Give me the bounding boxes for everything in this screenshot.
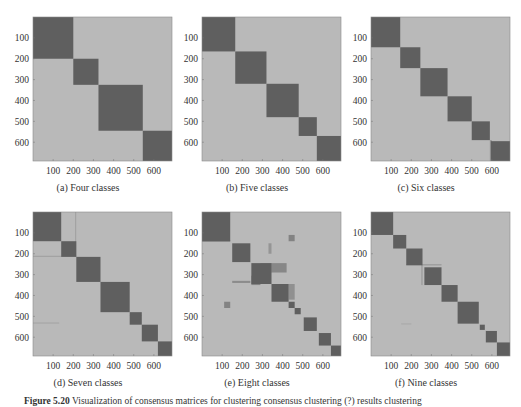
- cluster-block: [202, 17, 235, 51]
- x-tick-label: 300: [424, 166, 439, 176]
- panel-d: 100200300400500600100200300400500600 (d)…: [3, 201, 173, 391]
- x-tick-label: 200: [235, 166, 250, 176]
- off-diagonal-patch: [33, 323, 59, 324]
- x-tick-label: 600: [316, 361, 331, 371]
- x-tick-label: 400: [444, 166, 459, 176]
- y-tick-label: 300: [353, 75, 368, 85]
- cluster-block: [295, 308, 301, 314]
- y-tick-label: 200: [184, 249, 199, 259]
- cluster-block: [76, 257, 100, 282]
- off-diagonal-patch: [232, 281, 250, 283]
- cluster-block: [317, 136, 341, 161]
- y-tick-label: 600: [353, 138, 368, 148]
- cluster-block: [143, 131, 172, 161]
- cluster-block: [100, 282, 129, 312]
- cluster-block: [304, 317, 317, 331]
- y-tick-label: 500: [184, 312, 199, 322]
- x-tick-label: 500: [127, 361, 142, 371]
- cluster-block: [458, 302, 479, 324]
- cluster-block: [371, 17, 400, 47]
- y-tick-label: 600: [353, 333, 368, 343]
- cluster-block: [232, 243, 250, 262]
- cluster-block: [266, 84, 298, 117]
- cluster-block: [142, 325, 158, 342]
- figure-caption-text: Visualization of consensus matrices for …: [72, 396, 422, 406]
- x-tick-label: 600: [485, 166, 500, 176]
- x-tick-label: 200: [404, 166, 419, 176]
- cluster-block: [235, 51, 266, 83]
- off-diagonal-patch: [401, 324, 411, 325]
- figure-label: Figure 5.20: [24, 396, 70, 406]
- panel-f: 100200300400500600100200300400500600 (f)…: [341, 201, 511, 391]
- y-tick-label: 600: [184, 333, 199, 343]
- y-tick-label: 100: [15, 33, 30, 43]
- y-tick-label: 200: [353, 54, 368, 64]
- x-tick-label: 300: [86, 166, 101, 176]
- heatmap-f: 100200300400500600100200300400500600: [341, 201, 511, 373]
- cluster-block: [371, 212, 393, 235]
- cluster-block: [442, 285, 458, 302]
- y-tick-label: 300: [15, 270, 30, 280]
- cluster-block: [272, 284, 289, 302]
- y-tick-label: 500: [15, 312, 30, 322]
- panel-c: 100200300400500600100200300400500600 (c)…: [341, 6, 511, 196]
- x-tick-label: 400: [275, 361, 290, 371]
- cluster-block: [424, 267, 441, 285]
- off-diagonal-patch: [268, 243, 271, 253]
- x-tick-label: 600: [316, 166, 331, 176]
- panel-caption-d: (d) Seven classes: [3, 377, 173, 388]
- cluster-block: [472, 121, 490, 140]
- cluster-block: [289, 302, 295, 308]
- cluster-block: [33, 17, 73, 59]
- cluster-block: [202, 212, 230, 241]
- heatmap-d: 100200300400500600100200300400500600: [3, 201, 173, 373]
- y-tick-label: 300: [353, 270, 368, 280]
- x-tick-label: 100: [46, 166, 61, 176]
- y-tick-label: 600: [184, 138, 199, 148]
- y-tick-label: 300: [15, 75, 30, 85]
- cluster-block: [420, 68, 447, 96]
- x-tick-label: 400: [106, 361, 121, 371]
- x-tick-label: 600: [147, 361, 162, 371]
- x-tick-label: 200: [66, 361, 81, 371]
- y-tick-label: 500: [15, 117, 30, 127]
- cluster-block: [33, 212, 61, 241]
- cluster-block: [448, 96, 472, 121]
- x-tick-label: 300: [424, 361, 439, 371]
- cluster-block: [406, 249, 422, 266]
- cluster-block: [319, 333, 331, 346]
- cluster-block: [491, 141, 510, 161]
- off-diagonal-patch: [289, 284, 295, 300]
- x-tick-label: 200: [66, 166, 81, 176]
- y-tick-label: 500: [353, 117, 368, 127]
- y-tick-label: 300: [184, 270, 199, 280]
- heatmap-a: 100200300400500600100200300400500600: [3, 6, 173, 178]
- y-tick-label: 600: [15, 333, 30, 343]
- panel-caption-c: (c) Six classes: [341, 182, 511, 193]
- cluster-block: [486, 331, 497, 342]
- panel-e: 100200300400500600100200300400500600 (e)…: [172, 201, 342, 391]
- cluster-block: [61, 241, 76, 257]
- y-tick-label: 100: [353, 33, 368, 43]
- x-tick-label: 400: [275, 166, 290, 176]
- cluster-block: [497, 342, 510, 356]
- cluster-block: [299, 117, 317, 136]
- x-tick-label: 100: [46, 361, 61, 371]
- figure-caption: Figure 5.20 Visualization of consensus m…: [24, 396, 422, 406]
- x-tick-label: 400: [444, 361, 459, 371]
- panel-a: 100200300400500600100200300400500600 (a)…: [3, 6, 173, 196]
- cluster-block: [98, 85, 142, 131]
- y-tick-label: 100: [353, 228, 368, 238]
- x-tick-label: 100: [215, 166, 230, 176]
- x-tick-label: 500: [296, 166, 311, 176]
- off-diagonal-patch: [289, 235, 295, 241]
- y-tick-label: 500: [184, 117, 199, 127]
- heatmap-b: 100200300400500600100200300400500600: [172, 6, 342, 178]
- y-tick-label: 200: [184, 54, 199, 64]
- x-tick-label: 200: [235, 361, 250, 371]
- y-tick-label: 400: [15, 96, 30, 106]
- y-tick-label: 100: [184, 33, 199, 43]
- x-tick-label: 500: [465, 361, 480, 371]
- x-tick-label: 200: [404, 361, 419, 371]
- panel-caption-f: (f) Nine classes: [341, 377, 511, 388]
